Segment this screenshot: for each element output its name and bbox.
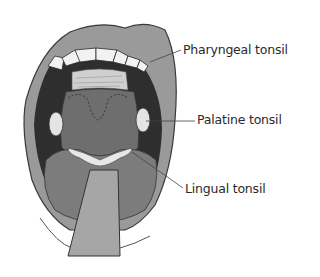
chin-arc bbox=[120, 236, 150, 248]
label-palatine-tonsil: Palatine tonsil bbox=[197, 112, 282, 127]
palatine-tonsil-left bbox=[49, 112, 63, 136]
label-lingual-tonsil: Lingual tonsil bbox=[185, 181, 265, 196]
palatine-tonsil-right bbox=[136, 108, 150, 132]
label-pharyngeal-tonsil: Pharyngeal tonsil bbox=[183, 42, 288, 57]
